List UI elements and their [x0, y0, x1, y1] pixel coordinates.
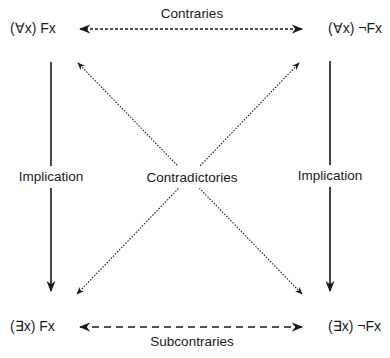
implication-left-label: Implication: [17, 169, 86, 184]
node-particular-negative: (∃x) ¬Fx: [328, 318, 381, 334]
contraries-label: Contraries: [159, 6, 225, 21]
contradictories-label: Contradictories: [145, 170, 240, 185]
implication-right-label: Implication: [296, 168, 365, 183]
node-universal-negative: (∀x) ¬Fx: [328, 20, 382, 36]
node-particular-affirmative: (∃x) Fx: [10, 318, 55, 334]
subcontraries-label: Subcontraries: [148, 334, 235, 349]
node-universal-affirmative: (∀x) Fx: [10, 20, 56, 36]
